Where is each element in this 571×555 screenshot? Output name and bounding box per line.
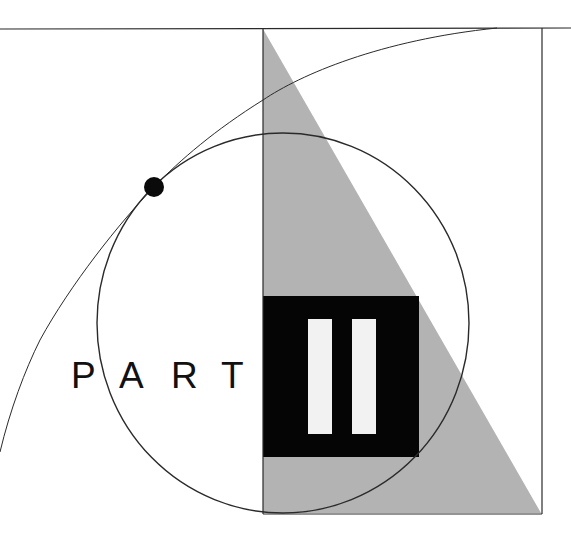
geometric-composition <box>0 0 571 555</box>
numeral-block <box>263 296 419 457</box>
numeral-bar-1 <box>308 319 332 434</box>
part-two-title-page: P A R T <box>0 0 571 555</box>
title-letter-p: P <box>71 357 96 394</box>
title-letter-r: R <box>171 357 198 394</box>
title-letter-t: T <box>221 357 244 394</box>
title-letter-a: A <box>119 357 144 394</box>
tangent-dot <box>144 177 164 197</box>
numeral-bar-2 <box>352 319 376 434</box>
